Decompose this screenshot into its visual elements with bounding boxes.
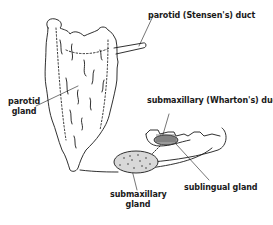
label-parotid-gland: parotid gland — [8, 97, 40, 117]
label-submaxillary-duct: submaxillary (Wharton's) duct — [147, 96, 273, 106]
label-parotid-duct: parotid (Stensen's) duct — [148, 11, 255, 21]
parotid-duct-shape — [114, 43, 146, 54]
label-sublingual-gland: sublingual gland — [184, 183, 257, 193]
label-parotid-gland-line1: parotid — [8, 97, 40, 107]
parotid-gland-shape — [45, 19, 118, 172]
label-submaxillary-gland-line2: gland — [110, 200, 166, 210]
label-submaxillary-gland: submaxillary gland — [110, 190, 166, 210]
label-parotid-gland-line2: gland — [8, 107, 40, 117]
mandible-outline — [80, 170, 118, 172]
submaxillary-gland-shape — [114, 151, 158, 173]
label-submaxillary-gland-line1: submaxillary — [110, 190, 166, 200]
